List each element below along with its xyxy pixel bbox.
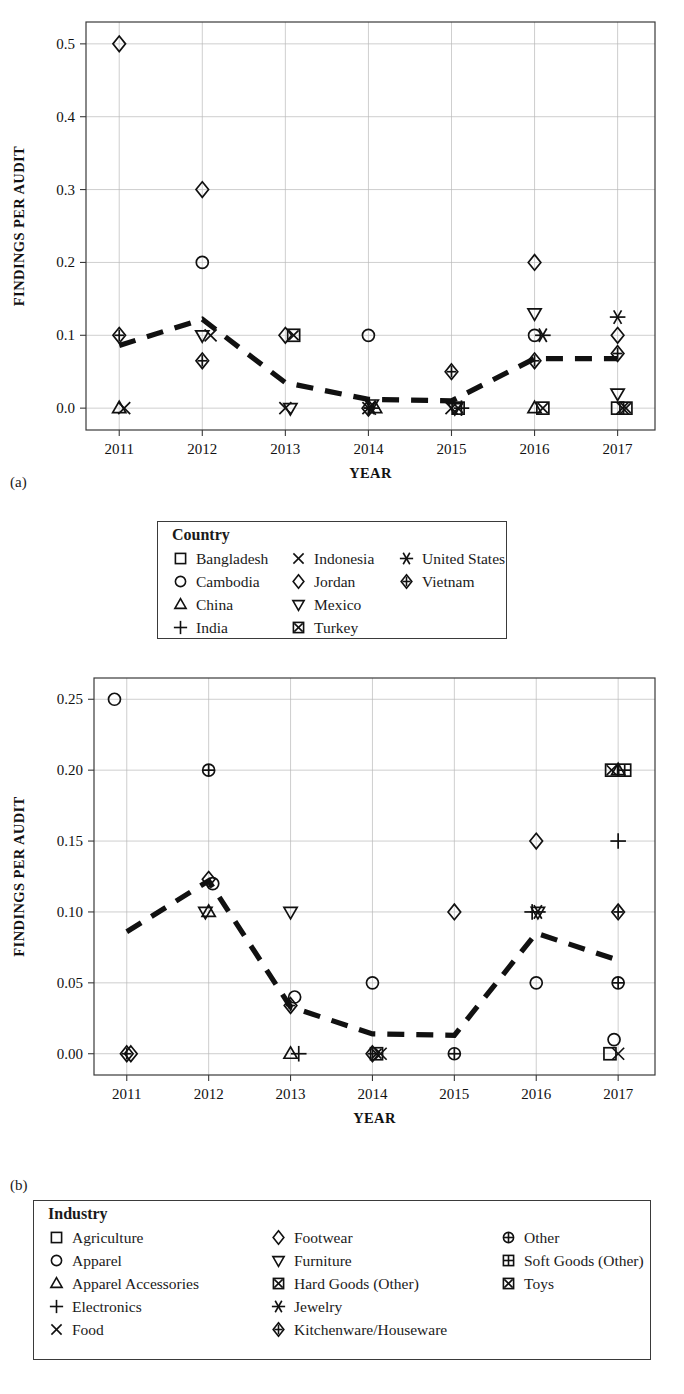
data-point-kitchenware-houseware: [612, 904, 625, 920]
data-point-vietnam: [113, 327, 126, 343]
panel-b: 0.000.050.100.150.200.252011201220132014…: [0, 660, 684, 1200]
data-point-other: [203, 764, 215, 776]
x-axis-title: YEAR: [353, 1110, 396, 1126]
legend-item-label: Indonesia: [314, 550, 374, 568]
legend-industry: Industry AgricultureFootwearOtherApparel…: [33, 1200, 651, 1360]
triangle-down-icon: [290, 596, 307, 613]
panel-b-label: (b): [10, 1177, 28, 1194]
x-tick-label: 2014: [353, 441, 384, 457]
legend-country-items: BangladeshIndonesiaUnited StatesCambodia…: [158, 547, 506, 647]
y-axis-title: FINDINGS PER AUDIT: [11, 146, 27, 306]
y-tick-label: 0.20: [57, 762, 83, 778]
legend-country-item-jordan: Jordan: [290, 570, 398, 593]
boxed-plus-icon: [500, 1252, 517, 1269]
legend-country: Country BangladeshIndonesiaUnited States…: [157, 521, 507, 639]
x-tick-label: 2016: [520, 441, 551, 457]
legend-industry-item-electronics: Electronics: [48, 1295, 270, 1318]
crossed-diamond-icon: [270, 1321, 287, 1338]
legend-spacer: [398, 593, 506, 616]
legend-item-label: Turkey: [314, 619, 358, 637]
legend-item-label: India: [196, 619, 228, 637]
legend-country-item-vietnam: Vietnam: [398, 570, 506, 593]
panel-a-label: (a): [10, 474, 27, 491]
legend-item-label: Apparel Accessories: [72, 1275, 199, 1293]
legend-item-label: Vietnam: [422, 573, 474, 591]
y-tick-label: 0.15: [57, 833, 83, 849]
cross-icon: [290, 550, 307, 567]
legend-item-label: United States: [422, 550, 505, 568]
legend-country-item-united-states: United States: [398, 547, 506, 570]
x-tick-label: 2015: [436, 441, 466, 457]
diamond-icon: [270, 1229, 287, 1246]
asterisk-icon: [270, 1298, 287, 1315]
asterisk-icon: [398, 550, 415, 567]
legend-industry-item-agriculture: Agriculture: [48, 1226, 270, 1249]
legend-industry-items: AgricultureFootwearOtherApparelFurniture…: [34, 1226, 650, 1349]
panel-a: 0.00.10.20.30.40.52011201220132014201520…: [0, 0, 684, 500]
y-tick-label: 0.2: [56, 254, 75, 270]
x-tick-label: 2016: [521, 1086, 552, 1102]
legend-item-label: Jewelry: [294, 1298, 342, 1316]
legend-spacer: [500, 1318, 650, 1341]
legend-country-item-mexico: Mexico: [290, 593, 398, 616]
boxed-x-icon: [270, 1275, 287, 1292]
y-tick-label: 0.4: [56, 109, 75, 125]
y-tick-label: 0.5: [56, 36, 75, 52]
diamond-icon: [290, 573, 307, 590]
legend-industry-title: Industry: [34, 1201, 650, 1226]
legend-item-label: Agriculture: [72, 1229, 143, 1247]
plus-icon: [172, 619, 189, 636]
x-tick-label: 2012: [194, 1086, 224, 1102]
y-tick-label: 0.05: [57, 975, 83, 991]
legend-item-label: Food: [72, 1321, 104, 1339]
legend-item-label: Hard Goods (Other): [294, 1275, 419, 1293]
legend-industry-item-other: Other: [500, 1226, 650, 1249]
legend-industry-item-furniture: Furniture: [270, 1249, 500, 1272]
data-point-vietnam: [196, 353, 209, 369]
x-tick-label: 2017: [603, 441, 634, 457]
x-tick-label: 2011: [104, 441, 133, 457]
legend-country-item-india: India: [172, 616, 290, 639]
boxed-x-icon: [290, 619, 307, 636]
legend-industry-item-soft-goods-other: Soft Goods (Other): [500, 1249, 650, 1272]
x-tick-label: 2014: [357, 1086, 388, 1102]
x-tick-label: 2013: [270, 441, 300, 457]
legend-item-label: Jordan: [314, 573, 355, 591]
plus-icon: [48, 1298, 65, 1315]
legend-spacer: [500, 1295, 650, 1318]
y-tick-label: 0.3: [56, 182, 75, 198]
legend-item-label: Soft Goods (Other): [524, 1252, 644, 1270]
data-point-electronics: [291, 1046, 307, 1062]
legend-item-label: Cambodia: [196, 573, 260, 591]
legend-industry-item-food: Food: [48, 1318, 270, 1341]
legend-item-label: Bangladesh: [196, 550, 268, 568]
y-tick-label: 0.00: [57, 1046, 83, 1062]
legend-item-label: Electronics: [72, 1298, 142, 1316]
legend-industry-item-apparel-accessories: Apparel Accessories: [48, 1272, 270, 1295]
legend-country-item-cambodia: Cambodia: [172, 570, 290, 593]
legend-industry-item-footwear: Footwear: [270, 1226, 500, 1249]
square-icon: [48, 1229, 65, 1246]
x-tick-label: 2015: [439, 1086, 469, 1102]
data-point-other: [448, 1048, 460, 1060]
legend-item-label: Footwear: [294, 1229, 353, 1247]
legend-item-label: Kitchenware/Houseware: [294, 1321, 447, 1339]
triangle-down-icon: [270, 1252, 287, 1269]
legend-country-title: Country: [158, 522, 506, 547]
legend-item-label: China: [196, 596, 233, 614]
boxed-x-icon: [500, 1275, 517, 1292]
legend-industry-item-hard-goods-other: Hard Goods (Other): [270, 1272, 500, 1295]
y-tick-label: 0.10: [57, 904, 83, 920]
triangle-up-icon: [172, 596, 189, 613]
x-tick-label: 2017: [603, 1086, 634, 1102]
circle-icon: [48, 1252, 65, 1269]
circle-plus-icon: [500, 1229, 517, 1246]
legend-item-label: Furniture: [294, 1252, 352, 1270]
y-axis-title: FINDINGS PER AUDIT: [11, 796, 27, 956]
data-point-vietnam: [445, 364, 458, 380]
data-point-electronics: [610, 833, 626, 849]
x-axis-title: YEAR: [349, 465, 392, 481]
y-tick-label: 0.1: [56, 327, 75, 343]
chart-a-canvas: 0.00.10.20.30.40.52011201220132014201520…: [0, 0, 684, 500]
legend-country-item-indonesia: Indonesia: [290, 547, 398, 570]
